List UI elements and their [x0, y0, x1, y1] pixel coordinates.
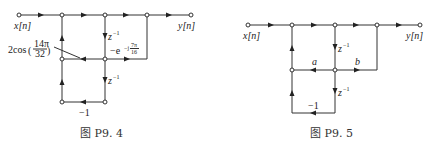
output-label: y[n]	[177, 20, 195, 31]
arrow-icon	[354, 68, 360, 73]
arrow-icon	[123, 13, 129, 18]
cos-gain-denominator: 32	[35, 48, 45, 59]
arrow-icon	[333, 44, 338, 50]
node	[60, 57, 64, 61]
node	[103, 100, 107, 104]
node	[290, 23, 294, 27]
delay-lower-exp: −1	[343, 86, 349, 92]
node	[103, 13, 107, 17]
output-label: y[n]	[405, 30, 423, 41]
arrow-icon	[311, 23, 317, 28]
exp-gain-numerator: 7π	[131, 42, 137, 48]
exp-gain-coeff: −e	[110, 45, 121, 56]
delay-lower-exp: −1	[113, 74, 119, 80]
arrow-icon	[166, 13, 172, 18]
node	[145, 13, 149, 17]
input-label: x[n]	[242, 30, 260, 41]
input-label: x[n]	[13, 20, 31, 31]
paren-close: )	[47, 45, 50, 57]
arrow-icon	[353, 23, 359, 28]
delay-upper-exp: −1	[343, 42, 349, 48]
arrow-icon	[38, 13, 44, 18]
figure-p9-5: x[n] y[n] z −1 a b z −1 −1 图 P9. 5	[242, 23, 423, 141]
exp-gain-denominator: 16	[131, 49, 137, 55]
delay-upper-label: z	[337, 43, 342, 54]
figure-p9-4: x[n] y[n] 2cos ( 14π 32 ) z −1 −e −j 7π …	[8, 13, 195, 141]
arrow-icon	[396, 23, 402, 28]
node	[333, 68, 337, 72]
arrow-icon	[333, 88, 338, 94]
delay-upper-exp: −1	[113, 30, 119, 36]
cos-gain-prefix: 2cos	[8, 44, 26, 55]
diagram-canvas: x[n] y[n] 2cos ( 14π 32 ) z −1 −e −j 7π …	[0, 0, 430, 149]
feedback-gain-label: −1	[308, 100, 319, 111]
node	[333, 23, 337, 27]
arrow-icon	[290, 90, 295, 96]
gain-a-label: a	[312, 56, 317, 67]
figure-caption: 图 P9. 4	[80, 127, 123, 140]
arrow-icon	[80, 57, 86, 62]
arrow-icon	[103, 33, 108, 39]
output-node	[189, 13, 193, 17]
arrow-icon	[60, 35, 65, 41]
arrow-icon	[60, 79, 65, 85]
node	[375, 23, 379, 27]
arrow-icon	[310, 68, 316, 73]
arrow-icon	[310, 111, 316, 116]
node	[60, 100, 64, 104]
arrow-icon	[290, 45, 295, 51]
input-node	[246, 23, 250, 27]
node	[60, 13, 64, 17]
arrow-icon	[268, 23, 274, 28]
arrow-icon	[80, 100, 86, 105]
node	[290, 68, 294, 72]
arrow-icon	[81, 13, 87, 18]
output-node	[418, 23, 422, 27]
arrow-icon	[103, 77, 108, 83]
paren-open: (	[28, 45, 32, 57]
figure-caption: 图 P9. 5	[310, 127, 353, 140]
arrow-icon	[124, 57, 130, 62]
delay-lower-label: z	[107, 75, 112, 86]
exp-gain-power: −j	[124, 45, 129, 51]
input-node	[17, 13, 21, 17]
delay-upper-label: z	[107, 31, 112, 42]
gain-b-label: b	[355, 56, 360, 67]
feedback-gain-label: −1	[79, 107, 90, 118]
node	[103, 57, 107, 61]
delay-lower-label: z	[337, 87, 342, 98]
